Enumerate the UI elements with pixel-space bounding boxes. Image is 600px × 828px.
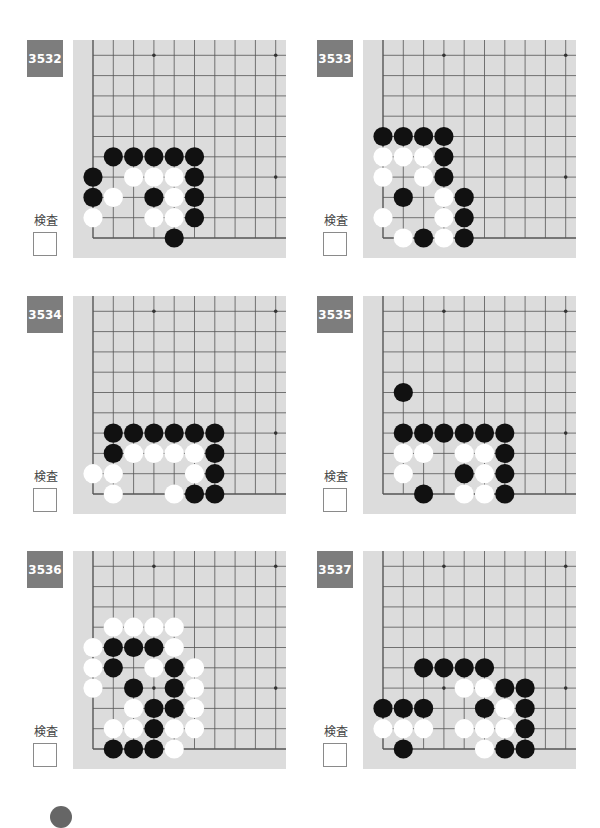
white-stone: [455, 719, 474, 738]
white-stone: [475, 739, 494, 758]
white-stone: [414, 168, 433, 187]
black-stone: [144, 147, 163, 166]
black-stone: [104, 638, 123, 657]
check-label: 検査: [321, 211, 351, 228]
white-stone: [455, 444, 474, 463]
white-stone: [124, 719, 143, 738]
black-stone: [144, 424, 163, 443]
black-stone: [455, 464, 474, 483]
white-stone: [165, 638, 184, 657]
black-stone: [165, 679, 184, 698]
black-stone: [516, 719, 535, 738]
black-stone: [495, 679, 514, 698]
puzzle-3537: 3537 検査: [317, 551, 577, 771]
white-stone: [475, 464, 494, 483]
check-checkbox[interactable]: [323, 743, 347, 767]
white-stone: [165, 618, 184, 637]
black-stone: [124, 679, 143, 698]
white-stone: [475, 719, 494, 738]
black-stone: [495, 444, 514, 463]
white-stone: [165, 444, 184, 463]
black-stone: [144, 719, 163, 738]
white-stone: [475, 484, 494, 503]
black-stone: [104, 147, 123, 166]
check-label: 検査: [31, 467, 61, 484]
problem-number-label: 3534: [27, 296, 63, 333]
puzzle-3534: 3534 検査: [27, 296, 287, 516]
white-stone: [434, 208, 453, 227]
white-stone: [373, 147, 392, 166]
black-stone: [124, 147, 143, 166]
black-stone: [455, 228, 474, 247]
black-stone: [144, 739, 163, 758]
board-grid: [73, 551, 286, 769]
white-stone: [165, 719, 184, 738]
black-stone: [455, 424, 474, 443]
black-stone: [434, 127, 453, 146]
black-stone: [434, 147, 453, 166]
white-stone: [165, 208, 184, 227]
black-stone: [394, 127, 413, 146]
black-stone: [124, 638, 143, 657]
black-stone: [495, 739, 514, 758]
white-stone: [83, 658, 102, 677]
black-stone: [205, 444, 224, 463]
white-stone: [144, 444, 163, 463]
white-stone: [83, 464, 102, 483]
black-stone: [144, 188, 163, 207]
check-checkbox[interactable]: [33, 488, 57, 512]
black-stone: [434, 658, 453, 677]
black-stone: [104, 739, 123, 758]
black-stone: [414, 228, 433, 247]
white-stone: [475, 444, 494, 463]
white-stone: [394, 147, 413, 166]
check-label: 検査: [321, 467, 351, 484]
white-stone: [414, 719, 433, 738]
black-stone: [205, 484, 224, 503]
black-stone: [83, 188, 102, 207]
white-stone: [394, 464, 413, 483]
black-stone: [185, 147, 204, 166]
black-stone: [165, 228, 184, 247]
black-stone: [104, 444, 123, 463]
black-stone: [394, 424, 413, 443]
black-stone: [495, 484, 514, 503]
black-stone: [205, 424, 224, 443]
black-stone: [475, 699, 494, 718]
check-checkbox[interactable]: [323, 232, 347, 256]
white-stone: [104, 719, 123, 738]
white-stone: [165, 739, 184, 758]
check-checkbox[interactable]: [33, 743, 57, 767]
check-checkbox[interactable]: [33, 232, 57, 256]
puzzle-3535: 3535 検査: [317, 296, 577, 516]
white-stone: [124, 444, 143, 463]
go-board: [73, 551, 286, 769]
white-stone: [124, 168, 143, 187]
black-stone: [373, 699, 392, 718]
black-stone: [104, 424, 123, 443]
white-stone: [104, 484, 123, 503]
black-stone: [124, 424, 143, 443]
black-stone: [185, 168, 204, 187]
check-checkbox[interactable]: [323, 488, 347, 512]
white-stone: [185, 699, 204, 718]
black-stone: [165, 424, 184, 443]
white-stone: [414, 444, 433, 463]
black-stone: [124, 739, 143, 758]
white-stone: [394, 444, 413, 463]
black-stone: [434, 424, 453, 443]
white-stone: [475, 679, 494, 698]
problem-number-label: 3533: [317, 40, 353, 77]
black-stone: [414, 127, 433, 146]
white-stone: [83, 208, 102, 227]
go-board: [363, 40, 576, 258]
black-stone: [455, 188, 474, 207]
puzzle-3532: 3532 検査: [27, 40, 287, 260]
white-stone: [373, 208, 392, 227]
check-label: 検査: [321, 722, 351, 739]
puzzle-3536: 3536 検査: [27, 551, 287, 771]
black-stone: [434, 168, 453, 187]
black-stone: [165, 699, 184, 718]
white-stone: [495, 699, 514, 718]
black-stone: [495, 424, 514, 443]
